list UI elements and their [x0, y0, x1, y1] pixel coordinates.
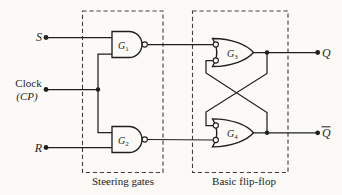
r-terminal-dot	[44, 145, 49, 150]
gate-g1-output-bubble	[142, 42, 147, 47]
qbar-feedback-junction-dot	[265, 131, 269, 135]
gate-g3-input-bubble-bottom	[213, 58, 218, 63]
gate-g4-input-bubble-bottom	[213, 137, 218, 142]
basic-flipflop-dashed-box	[193, 11, 289, 173]
wire-clock-to-g2	[98, 90, 112, 133]
clock-junction-dot	[96, 87, 100, 91]
gate-g2-output-bubble	[142, 137, 147, 142]
clock-input-label: Clock	[15, 77, 42, 89]
s-input-label: S	[36, 30, 42, 44]
q-terminal-dot	[315, 50, 320, 55]
r-input-label: R	[34, 141, 43, 155]
qbar-output-label: Q	[322, 126, 331, 140]
gate-g4-input-bubble-top	[213, 123, 218, 128]
wire-g2-to-g4	[147, 140, 213, 141]
qbar-terminal-dot	[315, 130, 320, 135]
wire-clock-to-g1	[98, 54, 112, 90]
steering-gates-caption: Steering gates	[92, 175, 154, 187]
q-feedback-junction-dot	[265, 50, 269, 54]
clocked-sr-flipflop-schematic: G1 G2 G3 G4 S Clock (CP) R Q Q Steering	[0, 0, 342, 195]
q-output-label: Q	[322, 46, 331, 60]
s-terminal-dot	[44, 35, 49, 40]
clock-terminal-dot	[44, 87, 49, 92]
clock-cp-label: (CP)	[16, 90, 38, 103]
circuit-diagram: G1 G2 G3 G4 S Clock (CP) R Q Q Steering	[0, 0, 342, 195]
gate-g3-input-bubble-top	[213, 42, 218, 47]
basic-flipflop-caption: Basic flip-flop	[212, 175, 276, 187]
